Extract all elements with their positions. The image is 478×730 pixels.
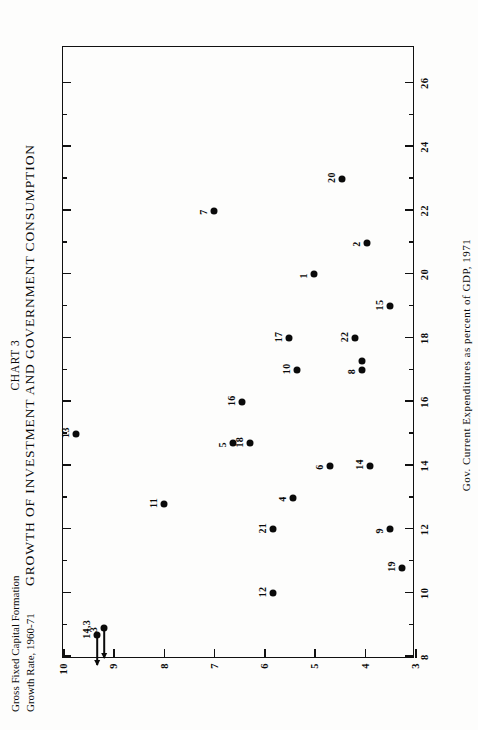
y-axis-tick-label: 7 xyxy=(208,663,219,683)
x-axis-tick xyxy=(62,592,71,594)
x-axis-tick xyxy=(405,400,414,402)
data-point-label: 5 xyxy=(217,442,228,447)
data-point-label: 4 xyxy=(277,496,288,501)
x-axis-tick xyxy=(62,273,71,275)
data-point xyxy=(286,335,293,342)
data-point-label: 11 xyxy=(148,498,159,508)
x-axis-tick xyxy=(405,145,414,147)
x-axis-tick xyxy=(405,337,414,339)
data-point-label: 8 xyxy=(346,369,357,374)
x-axis-tick xyxy=(62,145,71,147)
data-point xyxy=(210,207,217,214)
y-axis-tick xyxy=(314,649,316,658)
x-axis-minor-tick xyxy=(409,177,414,179)
y-axis-tick xyxy=(164,649,166,658)
data-point xyxy=(386,303,393,310)
data-point xyxy=(238,399,245,406)
x-axis-minor-tick xyxy=(409,305,414,307)
x-axis-minor-tick xyxy=(409,624,414,626)
data-point xyxy=(311,271,318,278)
data-point-label: 18 xyxy=(234,437,245,448)
x-axis-tick xyxy=(62,209,71,211)
x-axis-tick-label: 8 xyxy=(419,654,430,660)
x-axis-minor-tick xyxy=(62,496,67,498)
data-point-label: 2 xyxy=(351,241,362,246)
y-axis-tick-label: 4 xyxy=(359,663,370,683)
data-point-label: 15 xyxy=(374,300,385,311)
data-point-label: 14 xyxy=(354,459,365,470)
data-point-label: 22 xyxy=(339,332,350,343)
x-axis-minor-tick xyxy=(62,305,67,307)
data-point-label: 7 xyxy=(198,209,209,214)
y-axis-tick-label: 5 xyxy=(309,663,320,683)
data-point-arrow xyxy=(103,628,105,658)
x-axis-tick xyxy=(62,337,71,339)
x-axis-minor-tick xyxy=(409,369,414,371)
x-axis-minor-tick xyxy=(62,369,67,371)
x-axis-tick-label: 20 xyxy=(419,269,430,281)
data-point xyxy=(359,367,366,374)
y-axis-tick xyxy=(63,649,65,658)
x-axis-tick-label: 14 xyxy=(419,460,430,472)
y-axis-tick-label: 9 xyxy=(108,663,119,683)
y-axis-tick-label: 10 xyxy=(58,663,69,683)
y-axis-tick-label: 6 xyxy=(259,663,270,683)
data-point xyxy=(160,501,167,508)
x-axis-tick-label: 22 xyxy=(419,205,430,217)
x-axis-minor-tick xyxy=(62,241,67,243)
data-point xyxy=(247,440,254,447)
data-point-label: 19 xyxy=(386,561,397,572)
x-axis-tick xyxy=(405,273,414,275)
x-axis-tick-label: 16 xyxy=(419,396,430,408)
y-axis-label: Gross Fixed Capital Formation Growth Rat… xyxy=(8,575,38,712)
data-point xyxy=(399,564,406,571)
x-axis-minor-tick xyxy=(409,496,414,498)
x-axis-minor-tick xyxy=(62,624,67,626)
data-point-label: 9 xyxy=(374,528,385,533)
x-axis-minor-tick xyxy=(62,114,67,116)
y-axis-tick xyxy=(264,649,266,658)
x-axis-minor-tick xyxy=(409,114,414,116)
x-axis-minor-tick xyxy=(62,560,67,562)
data-point xyxy=(269,526,276,533)
data-point xyxy=(351,335,358,342)
x-axis-tick-label: 10 xyxy=(419,588,430,600)
data-point xyxy=(293,367,300,374)
data-point xyxy=(364,239,371,246)
data-point-label: 16 xyxy=(226,395,237,406)
data-point xyxy=(359,357,366,364)
data-point-label: 17 xyxy=(273,332,284,343)
data-point xyxy=(339,175,346,182)
y-axis-tick xyxy=(365,649,367,658)
data-point xyxy=(366,462,373,469)
x-axis-tick xyxy=(405,655,414,657)
chart-figure: CHART 3 GROWTH OF INVESTMENT AND GOVERNM… xyxy=(0,0,478,730)
data-point-label: 13 xyxy=(60,427,71,438)
x-axis-minor-tick xyxy=(409,560,414,562)
x-axis-tick-label: 18 xyxy=(419,333,430,345)
plot-area: 81012141618202224263456789101314,3311751… xyxy=(62,46,414,658)
x-axis-minor-tick xyxy=(409,241,414,243)
y-axis-label-line1: Gross Fixed Capital Formation xyxy=(8,575,23,712)
x-axis-label: Gov. Current Expenditures as percent of … xyxy=(460,0,472,730)
y-axis-tick-label: 8 xyxy=(158,663,169,683)
data-point-label: 3 xyxy=(88,627,99,632)
data-point xyxy=(386,526,393,533)
y-axis-tick-label: 3 xyxy=(410,663,421,683)
x-axis-tick-label: 26 xyxy=(419,78,430,90)
x-axis-tick xyxy=(62,82,71,84)
y-axis-tick xyxy=(113,649,115,658)
x-axis-tick xyxy=(405,209,414,211)
x-axis-tick xyxy=(405,528,414,530)
data-point xyxy=(269,590,276,597)
x-axis-tick xyxy=(405,592,414,594)
y-axis-tick xyxy=(415,649,417,658)
data-point-label: 6 xyxy=(314,464,325,469)
x-axis-tick xyxy=(62,464,71,466)
x-axis-tick-label: 24 xyxy=(419,141,430,153)
x-axis-minor-tick xyxy=(409,432,414,434)
data-point-label: 12 xyxy=(257,587,268,598)
data-point-label: 10 xyxy=(281,364,292,375)
x-axis-tick xyxy=(405,464,414,466)
x-axis-minor-tick xyxy=(62,177,67,179)
